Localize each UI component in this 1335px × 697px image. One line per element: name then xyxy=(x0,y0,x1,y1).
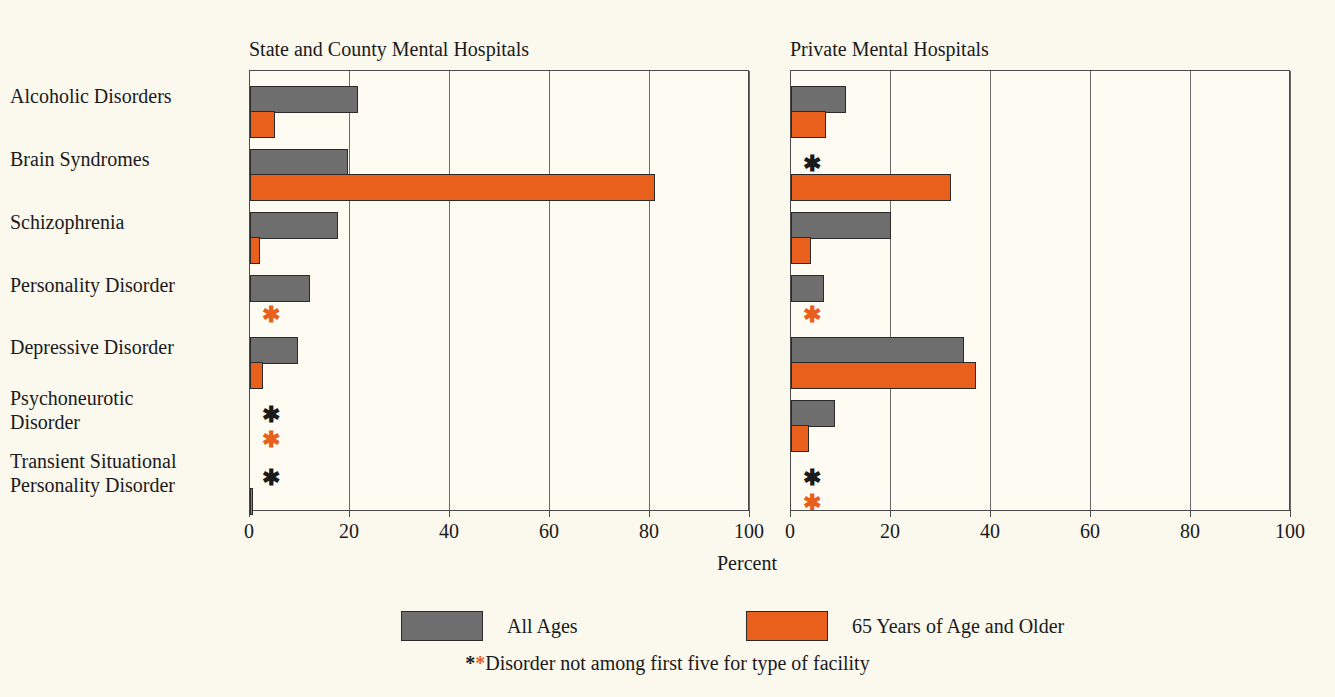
bar xyxy=(791,111,826,138)
panel-private-mental-hospitals: Private Mental Hospitals ✱✱✱✱ 0204060801… xyxy=(790,70,1290,510)
gridline xyxy=(749,71,750,510)
missing-data-asterisk: ✱ xyxy=(262,467,280,489)
gridline xyxy=(349,71,350,510)
bar xyxy=(791,237,811,264)
footnote-asterisk-black: * xyxy=(465,652,475,674)
legend-swatch-gray xyxy=(401,611,483,641)
category-label: Alcoholic Disorders xyxy=(0,84,228,108)
x-axis-caption: Percent xyxy=(717,552,777,575)
x-axis-tick xyxy=(349,510,350,517)
gridline xyxy=(890,71,891,510)
category-label: Brain Syndromes xyxy=(0,147,228,171)
x-axis-tick xyxy=(749,510,750,517)
x-axis-tick-label: 20 xyxy=(339,520,359,543)
panel-title: State and County Mental Hospitals xyxy=(249,38,529,61)
gridline xyxy=(649,71,650,510)
bar xyxy=(250,111,275,138)
bar xyxy=(250,337,298,364)
x-axis-line xyxy=(249,510,749,511)
category-label: Psychoneurotic Disorder xyxy=(0,386,228,434)
bar xyxy=(250,86,358,113)
bar xyxy=(791,174,951,201)
missing-data-asterisk: ✱ xyxy=(803,304,821,326)
legend-swatch-orange xyxy=(746,611,828,641)
category-label: Schizophrenia xyxy=(0,210,228,234)
x-axis-tick-label: 40 xyxy=(439,520,459,543)
panel-state-and-county-mental-hospitals: State and County Mental Hospitals ✱✱✱✱ 0… xyxy=(249,70,749,510)
missing-data-asterisk: ✱ xyxy=(262,429,280,451)
bar xyxy=(791,337,964,364)
x-axis-tick-label: 0 xyxy=(244,520,254,543)
gridline xyxy=(1190,71,1191,510)
x-axis-tick xyxy=(649,510,650,517)
x-axis-tick-label: 100 xyxy=(734,520,764,543)
legend-label: All Ages xyxy=(507,615,578,638)
legend-item-all-ages: All Ages xyxy=(401,611,578,641)
x-axis-tick-label: 80 xyxy=(1180,520,1200,543)
category-label: Transient Situational Personality Disord… xyxy=(0,449,228,497)
x-axis-tick xyxy=(449,510,450,517)
legend-footnote: **Disorder not among first five for type… xyxy=(0,652,1335,675)
gridline xyxy=(1290,71,1291,510)
bar xyxy=(250,275,310,302)
x-axis-tick-label: 80 xyxy=(639,520,659,543)
gridline xyxy=(990,71,991,510)
legend-label: 65 Years of Age and Older xyxy=(852,615,1064,638)
bar xyxy=(791,425,809,452)
footnote-text: Disorder not among first five for type o… xyxy=(485,652,869,674)
plot-area: ✱✱✱✱ xyxy=(249,70,749,510)
bar xyxy=(791,362,976,389)
bar xyxy=(250,237,260,264)
x-axis-tick-label: 60 xyxy=(1080,520,1100,543)
x-axis-tick xyxy=(1290,510,1291,517)
category-label-column: Alcoholic DisordersBrain SyndromesSchizo… xyxy=(0,70,238,510)
x-axis-tick xyxy=(1090,510,1091,517)
x-axis-tick-label: 100 xyxy=(1275,520,1305,543)
x-axis-tick xyxy=(790,510,791,517)
x-axis-tick-label: 40 xyxy=(980,520,1000,543)
missing-data-asterisk: ✱ xyxy=(803,153,821,175)
bar xyxy=(791,400,835,427)
chart-root: Alcoholic DisordersBrain SyndromesSchizo… xyxy=(0,0,1335,697)
missing-data-asterisk: ✱ xyxy=(262,404,280,426)
bar xyxy=(250,174,655,201)
x-axis-tick-label: 0 xyxy=(785,520,795,543)
category-label: Depressive Disorder xyxy=(0,335,228,359)
plot-area: ✱✱✱✱ xyxy=(790,70,1290,510)
bar xyxy=(250,362,263,389)
bar xyxy=(791,275,824,302)
x-axis-tick-label: 20 xyxy=(880,520,900,543)
missing-data-asterisk: ✱ xyxy=(803,467,821,489)
legend-item-65-years-of-age-and-older: 65 Years of Age and Older xyxy=(746,611,1064,641)
gridline xyxy=(1090,71,1091,510)
bar xyxy=(250,212,338,239)
x-axis-tick-label: 60 xyxy=(539,520,559,543)
bar xyxy=(250,488,253,515)
x-axis-tick xyxy=(990,510,991,517)
bar xyxy=(791,212,891,239)
x-axis-line xyxy=(790,510,1290,511)
category-label: Personality Disorder xyxy=(0,273,228,297)
x-axis-tick xyxy=(1190,510,1191,517)
x-axis-tick xyxy=(549,510,550,517)
x-axis-tick xyxy=(890,510,891,517)
gridline xyxy=(549,71,550,510)
bar xyxy=(250,149,348,176)
gridline xyxy=(449,71,450,510)
bar xyxy=(791,86,846,113)
panel-title: Private Mental Hospitals xyxy=(790,38,989,61)
missing-data-asterisk: ✱ xyxy=(262,304,280,326)
footnote-asterisk-orange: * xyxy=(475,652,485,674)
legend: All Ages 65 Years of Age and Older **Dis… xyxy=(0,596,1335,697)
